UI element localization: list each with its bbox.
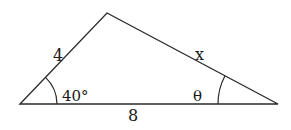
left-angle-arc xyxy=(46,77,58,104)
right-angle-arc xyxy=(218,76,225,104)
side-label-left: 4 xyxy=(53,46,63,65)
angle-label-right: θ xyxy=(193,87,202,105)
side-label-right: x xyxy=(195,45,204,64)
triangle-diagram: 4 x 8 40° θ xyxy=(0,0,291,130)
side-label-base: 8 xyxy=(128,106,138,125)
angle-label-left: 40° xyxy=(62,87,89,105)
